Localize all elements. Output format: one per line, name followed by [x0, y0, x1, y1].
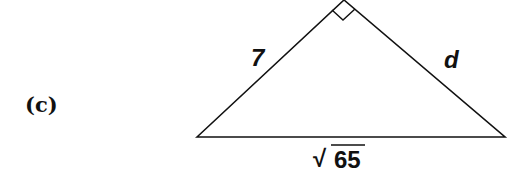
right-triangle-diagram: 7 d √ 65	[0, 0, 529, 188]
radical-sign: √	[313, 145, 327, 172]
left-leg-label: 7	[251, 44, 266, 71]
right-leg-label: d	[444, 46, 460, 73]
hypotenuse-label: √ 65	[313, 145, 365, 173]
radicand: 65	[334, 146, 361, 173]
triangle-shape	[197, 0, 505, 137]
right-angle-marker	[332, 9, 355, 20]
